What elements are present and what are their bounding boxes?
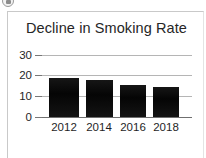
xtick-label-2018: 2018 <box>147 122 185 134</box>
ytick-label-10: 10 <box>0 91 32 103</box>
ytick-label-30: 30 <box>0 50 32 62</box>
xtick-label-2012: 2012 <box>45 122 83 134</box>
ytick-stub-20 <box>35 75 42 76</box>
circle-badge-icon <box>2 0 14 7</box>
bar-2012[interactable] <box>49 78 79 117</box>
bar-2014[interactable] <box>86 80 113 117</box>
ytick-label-0: 0 <box>0 112 32 124</box>
ytick-label-20: 20 <box>0 70 32 82</box>
ytick-stub-0 <box>35 117 42 118</box>
ytick-stub-30 <box>35 55 42 56</box>
axis-baseline <box>41 117 192 118</box>
ytick-stub-10 <box>35 96 42 97</box>
bar-2018[interactable] <box>153 87 179 117</box>
gridline-20 <box>41 75 192 76</box>
xtick-label-2014: 2014 <box>80 122 118 134</box>
gridline-30 <box>41 55 192 56</box>
bar-chart-plot: 30 20 10 0 2012 2014 2016 2018 <box>8 12 205 158</box>
chart-card: Decline in Smoking Rate 30 20 10 0 2012 … <box>7 11 204 158</box>
bar-2016[interactable] <box>120 85 146 117</box>
